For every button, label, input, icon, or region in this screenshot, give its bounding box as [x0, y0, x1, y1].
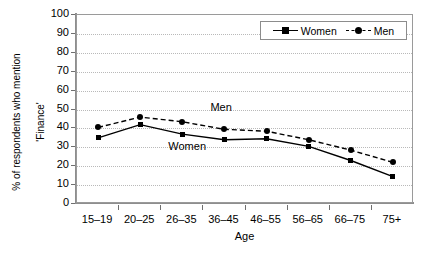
legend-label-women: Women [301, 25, 337, 37]
x-tick-mark [287, 205, 288, 210]
y-tick-label: 0 [43, 197, 69, 208]
legend-entry-women[interactable]: Women [273, 25, 337, 37]
data-point-women[interactable] [390, 174, 395, 179]
x-tick-label: 75+ [364, 213, 420, 225]
y-tick-label: 100 [43, 8, 69, 19]
legend-marker-women-icon [273, 26, 298, 36]
y-tick-label: 30 [43, 140, 69, 151]
data-point-men[interactable] [348, 147, 354, 153]
y-tick-label: 70 [43, 65, 69, 76]
x-axis-title: Age [76, 230, 413, 242]
series-lines [77, 15, 414, 204]
y-tick-label: 40 [43, 121, 69, 132]
chart-legend: Women Men [260, 21, 407, 40]
y-tick-label: 80 [43, 46, 69, 57]
plot-area: MenWomen Women Men [76, 14, 413, 203]
y-tick-label: 60 [43, 84, 69, 95]
x-tick-mark [371, 205, 372, 210]
legend-marker-men-icon [346, 26, 371, 36]
y-tick-label: 20 [43, 159, 69, 170]
data-point-men[interactable] [264, 128, 270, 134]
data-point-women[interactable] [138, 122, 143, 127]
x-tick-mark [329, 205, 330, 210]
x-tick-mark [118, 205, 119, 210]
data-point-women[interactable] [306, 144, 311, 149]
y-axis-title-line1: % of respondents who mention [11, 53, 22, 190]
data-point-women[interactable] [180, 132, 185, 137]
x-tick-mark [160, 205, 161, 210]
x-tick-mark [245, 205, 246, 210]
legend-entry-men[interactable]: Men [346, 25, 394, 37]
data-point-women[interactable] [222, 137, 227, 142]
annotation-women: Women [168, 140, 206, 152]
y-tick-label: 50 [43, 103, 69, 114]
y-tick-label: 10 [43, 178, 69, 189]
chart-container: % of respondents who mention 'Finance' 0… [0, 0, 425, 254]
data-point-women[interactable] [96, 135, 101, 140]
data-point-men[interactable] [306, 137, 312, 143]
x-tick-mark [202, 205, 203, 210]
data-point-women[interactable] [264, 136, 269, 141]
y-tick-label: 90 [43, 27, 69, 38]
annotation-men: Men [210, 101, 231, 113]
legend-label-men: Men [374, 25, 394, 37]
y-axis-title: % of respondents who mention 'Finance' [0, 27, 47, 217]
data-point-women[interactable] [348, 158, 353, 163]
